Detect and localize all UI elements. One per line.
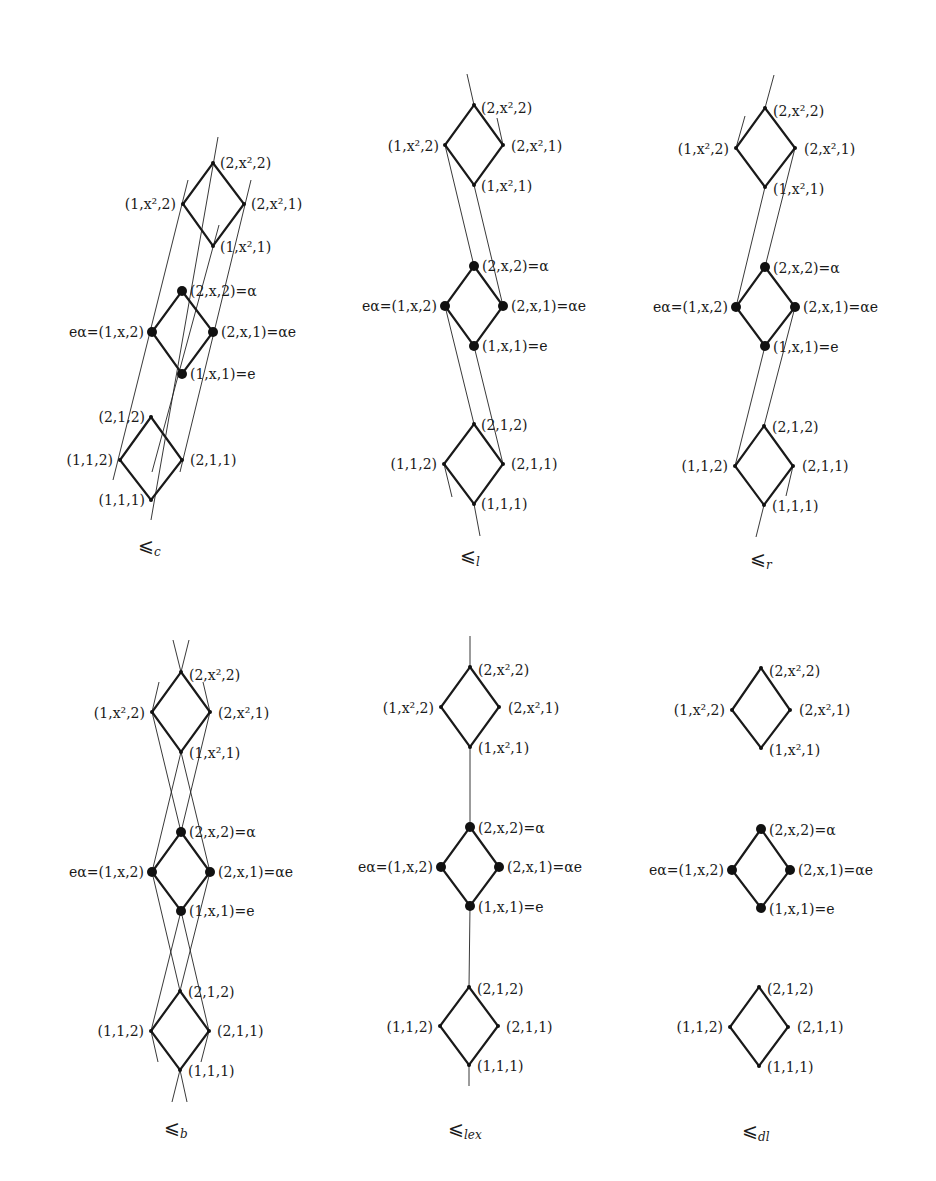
chain-line [474, 504, 480, 536]
order-caption: ⩽c [138, 534, 161, 559]
node-label: (2,1,1) [797, 1019, 844, 1035]
node-label: (1,x,1)=e [769, 901, 835, 917]
node-label: (1,x²,1) [769, 742, 820, 758]
node-label: (1,1,1) [481, 496, 528, 512]
chain-line [180, 872, 210, 991]
diagram-order-b: (2,x²,2) (1,x²,2) (2,x²,1) (1,x²,1) (2,x… [69, 640, 293, 1141]
node-dots [727, 666, 795, 1068]
node-label: eα=(1,x,2) [649, 862, 724, 878]
node-label: (1,1,2) [681, 458, 728, 474]
chain-line [756, 505, 764, 537]
node-label: (2,1,2) [481, 417, 528, 433]
chain-line [181, 752, 210, 872]
node-label: (2,1,1) [802, 458, 849, 474]
node-label: (2,x²,2) [478, 662, 529, 678]
node-label: (2,x²,2) [769, 663, 820, 679]
node-label: (2,x,2)=α [478, 820, 545, 836]
chain-line [445, 306, 474, 424]
node-label: (1,x²,1) [773, 181, 824, 197]
node-label: (1,x,1)=e [773, 339, 839, 355]
order-caption: ⩽dl [742, 1119, 770, 1144]
node-label: (2,x,2)=α [773, 260, 840, 276]
diamond-1 [440, 987, 498, 1065]
node-label: (1,1,1) [188, 1063, 235, 1079]
node-label: (2,x²,1) [804, 141, 855, 157]
node-label: (2,x²,1) [218, 705, 269, 721]
node-label: (1,1,1) [767, 1059, 814, 1075]
node-label: (1,x,1)=e [189, 903, 255, 919]
node-label: (1,x²,2) [674, 702, 725, 718]
node-label: (2,x,2)=α [190, 283, 257, 299]
node-label: (1,1,2) [676, 1019, 723, 1035]
diamond-x2 [152, 672, 210, 752]
chain-line [173, 640, 181, 672]
node-label: (2,x,2)=α [482, 258, 549, 274]
node-label: (2,x,2)=α [189, 824, 256, 840]
diamond-1 [735, 426, 793, 505]
node-label: (1,x,1)=e [478, 899, 544, 915]
node-label: (2,1,2) [767, 981, 814, 997]
node-label: (2,x²,2) [220, 155, 271, 171]
node-dots [731, 106, 800, 507]
node-label: (2,x,1)=αe [803, 299, 878, 315]
node-label: (2,x,1)=αe [218, 864, 293, 880]
order-diagrams-figure: (2,x²,2) (1,x²,2) (2,x²,1) (1,x²,1) (2,x… [0, 0, 936, 1181]
node-label: eα=(1,x,2) [362, 298, 437, 314]
node-label: (1,x²,1) [481, 178, 532, 194]
order-caption: ⩽l [460, 544, 480, 569]
node-label: (1,1,2) [390, 456, 437, 472]
diamond-x [441, 827, 499, 906]
node-label: (1,1,1) [98, 492, 145, 508]
node-label: (2,1,1) [511, 456, 558, 472]
node-label: eα=(1,x,2) [69, 324, 144, 340]
diamond-1 [151, 991, 209, 1070]
node-label: (1,x²,1) [220, 239, 271, 255]
node-label: eα=(1,x,2) [69, 864, 144, 880]
node-label: (1,x,1)=e [190, 366, 256, 382]
chain-line [474, 346, 503, 464]
chain-line [180, 1070, 187, 1102]
diagram-order-c: (2,x²,2) (1,x²,2) (2,x²,1) (1,x²,1) (2,x… [66, 137, 302, 559]
diamond-1 [120, 417, 182, 500]
node-label: (1,x²,1) [478, 740, 529, 756]
node-label: (2,x²,1) [799, 702, 850, 718]
diamond-x [736, 267, 795, 346]
node-label: (1,x²,1) [189, 745, 240, 761]
diamond-x2 [183, 163, 244, 246]
node-label: (1,1,2) [97, 1023, 144, 1039]
diamond-x [445, 266, 503, 346]
order-caption: ⩽lex [448, 1117, 482, 1142]
node-label: (1,1,1) [477, 1058, 524, 1074]
node-label: (1,x,1)=e [482, 338, 548, 354]
node-label: (2,x,1)=αe [798, 862, 873, 878]
node-label: (2,1,1) [190, 452, 237, 468]
diamond-1 [730, 987, 788, 1066]
diamond-1 [444, 424, 503, 504]
node-label: (1,x²,2) [388, 138, 439, 154]
diamond-x2 [732, 668, 790, 748]
chain-line [152, 712, 181, 832]
node-label: (1,x²,2) [383, 700, 434, 716]
chain-line [151, 911, 181, 1031]
node-label: (2,1,2) [477, 981, 524, 997]
diagram-order-l: (2,x²,2) (1,x²,2) (2,x²,1) (1,x²,1) (2,x… [362, 74, 586, 569]
chain-line [172, 1070, 180, 1102]
node-label: (2,1,2) [188, 984, 235, 1000]
node-dots [440, 103, 508, 506]
node-label: (2,x²,1) [251, 196, 302, 212]
chain-line [469, 906, 470, 987]
node-label: (2,x²,2) [481, 100, 532, 116]
diagram-order-lex: (2,x²,2) (1,x²,2) (2,x²,1) (1,x²,1) (2,x… [358, 636, 582, 1142]
node-label: (2,1,2) [98, 409, 145, 425]
node-label: (2,x²,1) [508, 700, 559, 716]
node-label: (2,x²,2) [189, 667, 240, 683]
diagram-order-dl: (2,x²,2) (1,x²,2) (2,x²,1) (1,x²,1) (2,x… [649, 663, 873, 1144]
order-caption: ⩽b [164, 1116, 188, 1141]
node-label: (2,x,2)=α [769, 822, 836, 838]
node-label: (1,1,2) [386, 1019, 433, 1035]
chain-line [764, 307, 795, 426]
node-label: (1,x²,2) [125, 196, 176, 212]
node-label: eα=(1,x,2) [653, 299, 728, 315]
node-label: (1,x²,2) [678, 141, 729, 157]
diamond-x [152, 291, 213, 374]
